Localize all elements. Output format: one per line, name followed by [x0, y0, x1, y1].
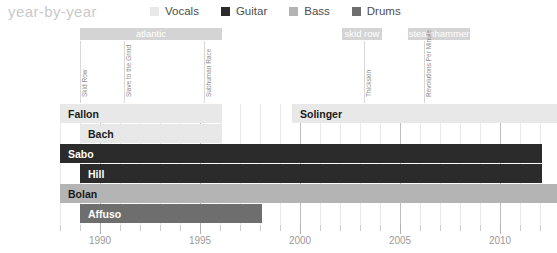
legend-label: Vocals: [165, 5, 199, 17]
axis-tick-label: 2000: [289, 235, 311, 246]
timeline-row: Sabo: [0, 144, 557, 163]
x-axis: 19901995200020052010: [0, 225, 557, 253]
axis-tick-major: [500, 225, 501, 234]
axis-tick-major: [300, 225, 301, 234]
timeline-row: FallonSolinger: [0, 104, 557, 123]
axis-tick-minor: [540, 225, 541, 231]
record-label-band: steamhammer: [408, 28, 470, 40]
album-marker-label: Revolutions Per Minute: [425, 30, 432, 97]
timeline-bar-label: Sabo: [60, 148, 94, 160]
axis-tick-minor: [460, 225, 461, 231]
axis-tick-major: [200, 225, 201, 234]
record-label-band: atlantic: [80, 28, 222, 40]
timeline-bar[interactable]: Hill: [80, 164, 542, 183]
album-marker-label: Slave to the Grind: [125, 45, 132, 97]
axis-tick-minor: [120, 225, 121, 231]
timeline-bar-label: Bach: [80, 128, 114, 140]
legend-swatch-icon: [289, 7, 298, 16]
legend-label: Bass: [304, 5, 330, 17]
axis-tick-minor: [140, 225, 141, 231]
legend-label: Drums: [367, 5, 401, 17]
axis-tick-major: [400, 225, 401, 234]
axis-tick-major: [100, 225, 101, 234]
axis-tick-minor: [280, 225, 281, 231]
timeline-bar-label: Hill: [80, 168, 104, 180]
axis-tick-label: 1995: [189, 235, 211, 246]
axis-tick-minor: [180, 225, 181, 231]
year-by-year-chart: year-by-year VocalsGuitarBassDrums atlan…: [0, 0, 557, 253]
record-label-band: skid row: [342, 28, 382, 40]
legend-item-drums[interactable]: Drums: [352, 5, 401, 17]
axis-tick-minor: [80, 225, 81, 231]
timeline-bar[interactable]: Solinger: [292, 104, 557, 123]
legend: VocalsGuitarBassDrums: [150, 5, 423, 17]
axis-tick-minor: [160, 225, 161, 231]
timeline-bar-label: Solinger: [292, 108, 342, 120]
axis-tick-label: 1990: [89, 235, 111, 246]
album-marker-layer: Skid RowSlave to the GrindSubhuman RaceT…: [0, 41, 557, 103]
axis-tick-minor: [440, 225, 441, 231]
legend-item-vocals[interactable]: Vocals: [150, 5, 199, 17]
legend-swatch-icon: [221, 7, 230, 16]
album-marker-label: Subhuman Race: [205, 49, 212, 97]
record-label-band-layer: atlanticskid rowsteamhammer: [0, 28, 557, 41]
timeline-bar-label: Fallon: [60, 108, 99, 120]
axis-tick-minor: [220, 225, 221, 231]
axis-tick-label: 2005: [389, 235, 411, 246]
page-title: year-by-year: [8, 3, 97, 20]
timeline-row: Bolan: [0, 184, 557, 203]
legend-label: Guitar: [236, 5, 267, 17]
timeline-row: Affuso: [0, 204, 557, 223]
axis-tick-minor: [260, 225, 261, 231]
timeline-bar-label: Bolan: [60, 188, 97, 200]
timeline-bar-label: Affuso: [80, 208, 121, 220]
plot-area: FallonSolingerBachSaboHillBolanAffuso: [0, 104, 557, 225]
axis-tick-minor: [480, 225, 481, 231]
axis-tick-minor: [520, 225, 521, 231]
axis-tick-minor: [340, 225, 341, 231]
axis-tick-minor: [380, 225, 381, 231]
legend-swatch-icon: [352, 7, 361, 16]
axis-tick-label: 2010: [489, 235, 511, 246]
timeline-row: Hill: [0, 164, 557, 183]
timeline-bar[interactable]: Sabo: [60, 144, 542, 163]
timeline-bar[interactable]: Bolan: [60, 184, 557, 203]
album-marker-label: Thickskin: [365, 70, 372, 97]
timeline-row: Bach: [0, 124, 557, 143]
album-marker-label: Skid Row: [81, 70, 88, 97]
axis-tick-minor: [60, 225, 61, 231]
timeline-bar[interactable]: Bach: [80, 124, 222, 143]
axis-tick-minor: [360, 225, 361, 231]
legend-item-guitar[interactable]: Guitar: [221, 5, 267, 17]
axis-tick-minor: [320, 225, 321, 231]
legend-item-bass[interactable]: Bass: [289, 5, 330, 17]
timeline-bar[interactable]: Affuso: [80, 204, 262, 223]
axis-tick-minor: [240, 225, 241, 231]
legend-swatch-icon: [150, 7, 159, 16]
axis-tick-minor: [420, 225, 421, 231]
timeline-bar[interactable]: Fallon: [60, 104, 222, 123]
